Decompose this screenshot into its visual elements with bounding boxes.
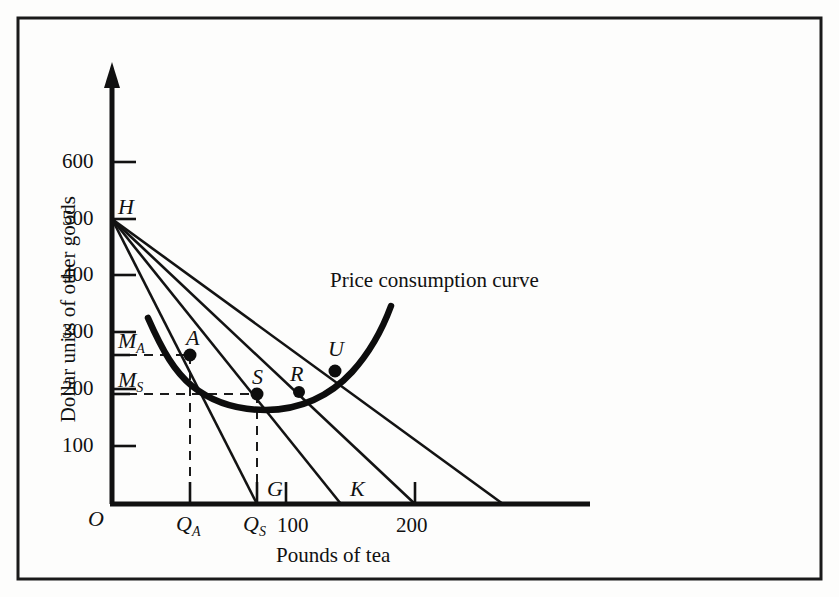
x-label-q-s: QS — [243, 513, 266, 539]
point-label-a: A — [186, 327, 199, 349]
y-label-m-s: MS — [118, 369, 143, 395]
y-label-m-s-sub: S — [136, 380, 143, 395]
point-label-h: H — [118, 196, 134, 218]
x-label-q-s-base: Q — [243, 511, 259, 536]
x-label-q-a: QA — [176, 513, 200, 539]
marker-point-r — [293, 386, 305, 398]
y-tick-label-100: 100 — [62, 435, 94, 456]
marker-point-s — [251, 388, 264, 401]
price-consumption-curve-label: Price consumption curve — [330, 270, 539, 291]
marker-point-a — [184, 349, 197, 362]
figure-border — [18, 18, 821, 579]
origin-label: O — [88, 508, 104, 530]
x-axis-title: Pounds of tea — [276, 545, 390, 566]
x-tick-label-200: 200 — [396, 515, 428, 536]
x-tick-label-100: 100 — [277, 515, 309, 536]
x-tick-marks — [190, 482, 415, 504]
y-axis-arrow — [104, 62, 120, 88]
point-label-g: G — [267, 478, 283, 500]
x-label-q-s-sub: S — [259, 524, 266, 539]
point-label-s: S — [252, 366, 263, 388]
point-label-u: U — [328, 338, 344, 360]
marker-point-u — [329, 365, 342, 378]
budget-line-h3 — [112, 219, 415, 504]
x-label-q-a-sub: A — [192, 524, 201, 539]
y-axis-title-wrapper: Dollar units of other goods — [34, 196, 58, 416]
y-tick-label-600: 600 — [62, 151, 94, 172]
y-label-m-a-sub: A — [136, 341, 145, 356]
point-label-k: K — [350, 478, 365, 500]
chart-canvas — [0, 0, 839, 597]
y-label-m-a-base: M — [118, 328, 136, 353]
y-label-m-a: MA — [118, 330, 145, 356]
figure-container: 600 500 400 300 200 100 MA MS O QA QS 10… — [0, 0, 839, 597]
point-label-r: R — [290, 363, 303, 385]
y-label-m-s-base: M — [118, 367, 136, 392]
budget-line-hg — [112, 219, 257, 504]
x-label-q-a-base: Q — [176, 511, 192, 536]
y-axis-title: Dollar units of other goods — [56, 196, 81, 422]
